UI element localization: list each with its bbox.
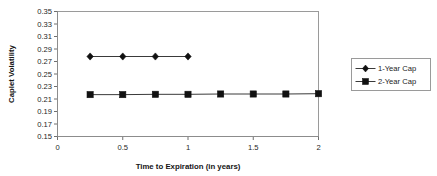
series-1 (87, 53, 191, 60)
series-2 (87, 91, 322, 98)
x-tick-label: 1 (186, 143, 190, 152)
x-axis-title: Time to Expiration (in years) (136, 162, 241, 171)
y-tick-label: 0.33 (37, 20, 52, 29)
square-marker (315, 91, 321, 97)
y-axis-title: Caplet Volatility (7, 44, 16, 103)
diamond-marker (120, 53, 126, 60)
y-tick-label: 0.15 (37, 132, 52, 141)
square-marker (185, 91, 191, 97)
square-marker (152, 91, 158, 97)
square-marker (218, 91, 224, 97)
diamond-marker (152, 53, 158, 60)
x-tick-label: 0.5 (117, 143, 128, 152)
x-axis: 00.511.52 (55, 137, 320, 152)
square-marker (363, 79, 369, 85)
diamond-marker (185, 53, 191, 60)
y-axis: 0.150.170.190.210.230.250.270.290.310.33… (37, 7, 57, 141)
y-tick-label: 0.29 (37, 45, 52, 54)
y-tick-label: 0.35 (37, 7, 52, 16)
diamond-marker (87, 53, 93, 60)
x-tick-label: 2 (316, 143, 320, 152)
y-tick-label: 0.31 (37, 32, 52, 41)
square-marker (283, 91, 289, 97)
legend: 1-Year Cap2-Year Cap (352, 59, 431, 91)
y-tick-label: 0.23 (37, 82, 52, 91)
y-tick-label: 0.25 (37, 70, 52, 79)
data-series-group (87, 53, 322, 98)
caplet-volatility-line-chart: 0.150.170.190.210.230.250.270.290.310.33… (0, 0, 437, 176)
x-tick-label: 0 (55, 143, 59, 152)
y-tick-label: 0.17 (37, 120, 52, 129)
square-marker (87, 92, 93, 98)
chart-container: 0.150.170.190.210.230.250.270.290.310.33… (0, 0, 437, 176)
y-tick-label: 0.19 (37, 107, 52, 116)
plot-frame (58, 12, 319, 137)
x-tick-label: 1.5 (248, 143, 259, 152)
square-marker (120, 92, 126, 98)
legend-label: 1-Year Cap (378, 64, 416, 73)
y-tick-label: 0.27 (37, 57, 52, 66)
y-tick-label: 0.21 (37, 95, 52, 104)
legend-label: 2-Year Cap (378, 77, 416, 86)
square-marker (250, 91, 256, 97)
